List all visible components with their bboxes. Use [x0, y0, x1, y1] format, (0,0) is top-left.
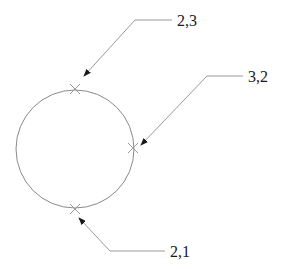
marker-bottom-icon — [70, 204, 80, 214]
marker-right-icon — [128, 143, 138, 153]
callout-3-2: 3,2 — [141, 68, 268, 145]
marker-top-icon — [70, 84, 80, 94]
leader-line-3-2 — [141, 76, 243, 145]
diagram-canvas: 2,3 3,2 2,1 — [0, 0, 281, 269]
leader-line-2-1 — [79, 218, 165, 251]
leader-line-2-3 — [84, 20, 172, 76]
callout-label-3-2: 3,2 — [248, 68, 268, 85]
callout-label-2-1: 2,1 — [170, 243, 190, 260]
callout-2-1: 2,1 — [79, 218, 190, 260]
callout-label-2-3: 2,3 — [177, 12, 197, 29]
callout-2-3: 2,3 — [84, 12, 197, 76]
circle — [16, 90, 134, 208]
